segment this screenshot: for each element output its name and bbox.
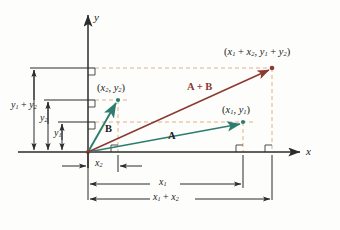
dim-x1-plus-x2-label: x1 + x2	[153, 192, 179, 203]
dim-y1-label: y1	[54, 128, 62, 139]
right-angle-y2	[88, 100, 95, 107]
y-axis-label: y	[94, 12, 99, 23]
vector-addition-figure: y x (x1 + x2, y1 + y2) (x2, y2) (x1, y1)…	[0, 0, 340, 230]
dim-x2-label: x2	[95, 158, 103, 169]
point-p2-dot	[116, 98, 120, 102]
axes	[18, 15, 300, 168]
point-p1-dot	[241, 120, 245, 124]
vertical-dimensions	[30, 68, 95, 150]
right-angle-sum-x	[265, 145, 272, 152]
right-angle-sum-y	[88, 68, 95, 75]
dim-y2-label: y2	[40, 113, 48, 124]
vector-sum-label: A + B	[187, 82, 212, 93]
dim-y1-plus-y2-label: y1 + y2	[11, 100, 37, 111]
dim-x1-label: x1	[159, 177, 167, 188]
point-sum-label: (x1 + x2, y1 + y2)	[224, 47, 290, 58]
vector-b-label: B	[105, 124, 112, 135]
point-p1-label: (x1, y1)	[222, 105, 250, 116]
x-axis-label: x	[306, 146, 311, 157]
point-sum-dot	[270, 66, 275, 71]
vector-a-label: A	[168, 131, 176, 142]
point-p2-label: (x2, y2)	[97, 83, 125, 94]
right-angle-x1	[236, 145, 243, 152]
right-angle-y1	[88, 122, 95, 129]
